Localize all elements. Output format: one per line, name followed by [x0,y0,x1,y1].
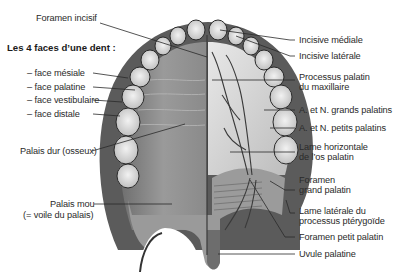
label-face-mesiale: – face mésiale [27,68,85,78]
label-os-palatin: de l’os palatin [299,152,354,162]
heading-tooth-faces: Les 4 faces d’une dent : [7,42,116,53]
label-grands-palatins: A. et N. grands palatins [299,105,392,115]
label-grand-palatin: grand palatin [299,185,351,195]
label-foramen-incisif: Foramen incisif [36,13,97,23]
label-voile-du-palais: (= voile du palais) [23,210,93,220]
label-lame-laterale: Lame latérale du [299,206,366,216]
label-face-distale: – face distale [27,109,80,119]
label-du-maxillaire: du maxillaire [299,82,349,92]
label-foramen: Foramen [299,175,335,185]
label-processus-palatin: Processus palatin [299,72,370,82]
label-face-palatine: – face palatine [27,82,85,92]
label-petits-palatins: A. et N. petits palatins [299,123,386,133]
label-uvule-palatine: Uvule palatine [299,249,356,259]
label-lame-horizontale: Lame horizontale [299,142,368,152]
label-incisive-laterale: Incisive latérale [299,51,361,61]
label-palais-dur: Palais dur (osseux) [20,146,97,156]
uvula [207,230,220,270]
label-processus-pterygoide: processus ptérygoïde [299,216,385,226]
label-face-vestibulaire: – face vestibulaire [27,95,99,105]
label-palais-mou: Palais mou [50,199,94,209]
label-incisive-mediale: Incisive médiale [299,35,363,45]
label-foramen-petit-palatin: Foramen petit palatin [299,232,383,242]
